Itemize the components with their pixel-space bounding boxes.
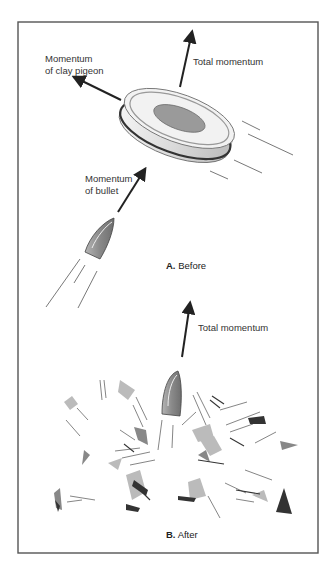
label-line: Momentum (85, 173, 133, 185)
clay-pigeon-momentum-label: Momentum of clay pigeon (45, 53, 104, 76)
clay-pigeon-icon (112, 76, 243, 175)
total-momentum-arrow-after (182, 303, 190, 357)
label-line: Momentum (45, 53, 104, 65)
caption-text: Before (178, 260, 206, 271)
bullet-after-icon (162, 371, 181, 416)
clay-pigeon-momentum-arrow (74, 77, 121, 100)
caption-letter: A. (166, 260, 176, 271)
label-line: of bullet (85, 185, 133, 197)
caption-letter: B. (166, 529, 176, 540)
label-line: of clay pigeon (45, 65, 104, 77)
bullet-momentum-label: Momentum of bullet (85, 173, 133, 196)
diagram-momentum-conservation: Momentum of clay pigeon Total momentum M… (0, 0, 330, 571)
total-momentum-before-label: Total momentum (193, 56, 263, 68)
caption-text: After (178, 529, 198, 540)
total-momentum-arrow-before (180, 32, 192, 87)
caption-after: B. After (166, 529, 198, 540)
caption-before: A. Before (166, 260, 206, 271)
total-momentum-after-label: Total momentum (198, 322, 268, 334)
bullet-motion-lines (46, 259, 97, 308)
bullet-before-icon (85, 218, 114, 259)
